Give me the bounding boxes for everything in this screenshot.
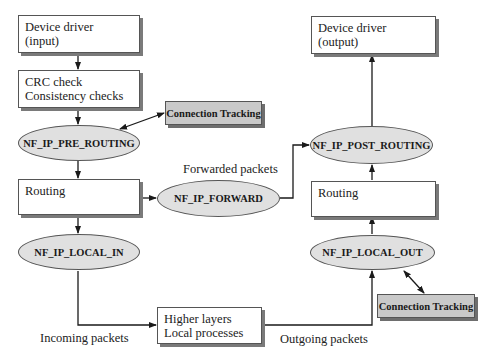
device-driver-input-line2: (input) — [25, 34, 133, 48]
hook-pre-routing: NF_IP_PRE_ROUTING — [18, 125, 140, 161]
device-driver-output-line2: (output) — [318, 35, 429, 49]
checks-line1: CRC check — [25, 75, 133, 89]
checks-box: CRC check Consistency checks — [18, 70, 140, 108]
outgoing-packets-label: Outgoing packets — [280, 332, 368, 347]
higher-layers-line1: Higher layers — [164, 312, 255, 326]
hook-local-in: NF_IP_LOCAL_IN — [18, 234, 140, 270]
connection-tracking-top: Connection Tracking — [165, 101, 262, 125]
routing-left-box: Routing — [18, 179, 140, 215]
device-driver-output-box: Device driver (output) — [311, 16, 436, 54]
higher-layers-line2: Local processes — [164, 326, 255, 340]
routing-right-box: Routing — [311, 181, 436, 217]
incoming-packets-label: Incoming packets — [40, 331, 129, 346]
device-driver-output-line1: Device driver — [318, 21, 429, 35]
forwarded-packets-label: Forwarded packets — [183, 162, 278, 177]
checks-line2: Consistency checks — [25, 89, 133, 103]
higher-layers-box: Higher layers Local processes — [157, 307, 262, 344]
device-driver-input-box: Device driver (input) — [18, 15, 140, 53]
routing-right-label: Routing — [318, 186, 429, 200]
hook-post-routing: NF_IP_POST_ROUTING — [310, 126, 433, 164]
routing-left-label: Routing — [25, 184, 133, 198]
hook-forward: NF_IP_FORWARD — [157, 180, 280, 217]
hook-local-out: NF_IP_LOCAL_OUT — [310, 235, 435, 270]
device-driver-input-line1: Device driver — [25, 20, 133, 34]
connection-tracking-bottom: Connection Tracking — [377, 294, 475, 318]
